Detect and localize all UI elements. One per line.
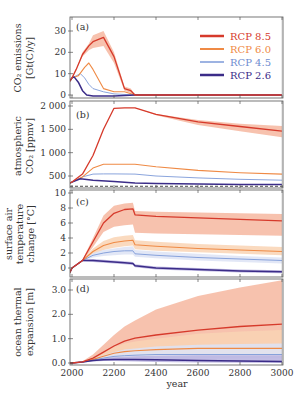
panel-b-plot-area <box>70 108 283 186</box>
xtick-3000: 3000 <box>271 368 294 378</box>
xtick-2800: 2800 <box>229 368 252 378</box>
legend: RCP 8.5 RCP 6.0 RCP 4.5 RCP 2.6 <box>200 31 271 81</box>
ylabel-d-line1: ocean thermal <box>12 287 23 356</box>
ytick-label: 4 <box>60 233 66 243</box>
ytick-label: 2.0 <box>52 309 67 319</box>
ytick-label: 10 <box>55 188 67 198</box>
xtick-2000: 2000 <box>61 368 84 378</box>
xtick-2400: 2400 <box>145 368 168 378</box>
ytick-label: 6 <box>60 218 66 228</box>
legend-label-rcp60: RCP 6.0 <box>230 44 271 55</box>
ytick-label: 10 <box>55 69 67 79</box>
legend-label-rcp85: RCP 8.5 <box>230 31 271 42</box>
ylabel-c-line2: temperature <box>14 203 25 264</box>
ytick-label: 30 <box>55 26 67 36</box>
ylabel-a: CO₂ emissions [Gt(C)/y] <box>12 23 35 92</box>
uncertainty-band-85 <box>70 108 282 183</box>
ytick-label: 2 <box>60 248 66 258</box>
legend-label-rcp26: RCP 2.6 <box>230 70 271 81</box>
xtick-2600: 2600 <box>187 368 210 378</box>
series-line-45 <box>70 174 282 183</box>
ylabel-b-line2: CO₂ [ppmv] <box>24 118 35 174</box>
xtick-2200: 2200 <box>103 368 126 378</box>
panel-label-a: (a) <box>76 21 89 32</box>
panel-label-d: (d) <box>76 283 90 294</box>
ytick-label: 8 <box>60 203 66 213</box>
ytick-label: 0 <box>60 263 66 273</box>
ytick-label: 500 <box>49 171 66 181</box>
ytick-label: 0 <box>60 90 66 100</box>
panel-d-plot-area <box>70 280 282 363</box>
ylabel-b: atmospheric CO₂ [ppmv] <box>12 116 35 176</box>
ylabel-a-line1: CO₂ emissions <box>12 23 23 92</box>
panel-b-frame <box>70 101 283 188</box>
ytick-label: 2 000 <box>40 101 66 111</box>
x-axis-label: year <box>165 378 188 389</box>
ylabel-c: surface air temperature change [°C] <box>3 203 36 264</box>
ytick-label: 1 000 <box>40 148 66 158</box>
ylabel-c-line1: surface air <box>3 208 14 260</box>
legend-label-rcp45: RCP 4.5 <box>230 57 271 68</box>
ylabel-c-line3: change [°C] <box>25 205 36 262</box>
panel-label-c: (c) <box>76 196 89 207</box>
panel-c-plot-area <box>70 203 282 273</box>
ytick-label: 1 500 <box>40 124 66 134</box>
ytick-label: 3.0 <box>52 285 67 295</box>
ylabel-a-line2: [Gt(C)/y] <box>24 37 35 79</box>
panel-c-temperature-change: 0246810 <box>55 188 283 277</box>
rcp-figure: 0102030 5001 0001 5002 000 0246810 0.01.… <box>0 0 306 409</box>
ytick-label: 1.0 <box>52 334 67 344</box>
ylabel-d-line2: expansion [m] <box>24 288 35 356</box>
ytick-label: 20 <box>55 47 67 57</box>
ylabel-d: ocean thermal expansion [m] <box>12 287 35 356</box>
ylabel-b-line1: atmospheric <box>12 116 23 176</box>
panel-label-b: (b) <box>76 109 90 120</box>
ytick-label: 0.0 <box>52 358 67 368</box>
x-tick-labels: 2000 2200 2400 2600 2800 3000 <box>61 368 294 378</box>
